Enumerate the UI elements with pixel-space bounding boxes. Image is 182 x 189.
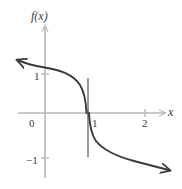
function-graph-figure: f(x) x 0 1 2 1 −1	[0, 0, 182, 189]
origin-label: 0	[29, 118, 35, 129]
x-tick-label-2: 2	[142, 118, 148, 129]
curve-left-branch	[19, 61, 87, 114]
x-axis-label: x	[168, 106, 173, 118]
y-tick-label-minus-1: −1	[26, 155, 38, 166]
x-tick-label-1: 1	[92, 118, 98, 129]
curve-right-branch	[89, 113, 169, 170]
y-axis-label: f(x)	[31, 10, 48, 22]
y-tick-label-1: 1	[34, 71, 40, 82]
